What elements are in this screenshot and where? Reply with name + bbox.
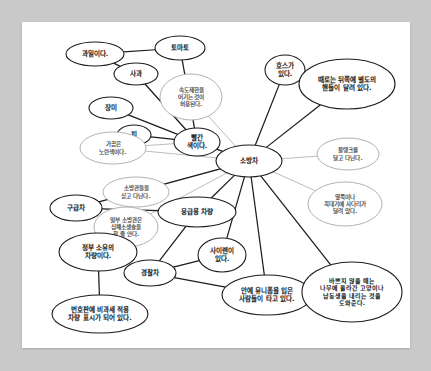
edge-n_ladder-to-n_firetruck	[273, 172, 315, 191]
node-plate[interactable]: 번호판에 비과세 적용차량 표시가 되어 있다.	[52, 295, 148, 333]
concept-map-graph: 과일이다.토마토사과장미피빨간색이다.속도제한을어기는 것이허용된다.가끔은노란…	[22, 22, 410, 348]
node-label: 속도제한을어기는 것이허용된다.	[178, 85, 205, 107]
node-label: 응급용 차량	[181, 207, 213, 216]
edge-n_rearwheel-to-n_firetruck	[266, 105, 320, 148]
node-tomato[interactable]: 토마토	[155, 36, 205, 60]
node-label: 과일이다.	[82, 49, 109, 58]
node-emergency[interactable]: 응급용 차량	[158, 197, 236, 227]
node-ambulance[interactable]: 구급차	[50, 195, 102, 221]
node-red[interactable]: 빨간색이다.	[174, 128, 220, 156]
edge-n_emergency-to-n_firetruck	[211, 175, 234, 198]
node-speed[interactable]: 속도제한을어기는 것이허용된다.	[160, 74, 222, 120]
node-watertank[interactable]: 물탱크를달고 다닌다.	[317, 138, 379, 170]
node-yellow[interactable]: 가끔은노란색이다.	[80, 132, 146, 164]
edge-n_emergency-to-n_police	[159, 226, 186, 260]
node-label: 구급차	[67, 203, 86, 212]
node-fruit[interactable]: 과일이다.	[66, 42, 124, 66]
node-govt[interactable]: 정부 소유의차량이다.	[59, 233, 137, 271]
node-label: 호스가있다.	[276, 61, 294, 78]
node-carries[interactable]: 소방관들을싣고 다닌다.	[103, 177, 169, 207]
edge-n_fruit-to-n_apple	[114, 63, 120, 66]
edge-n_uniform-to-n_firetruck	[251, 177, 264, 275]
image-frame: 과일이다.토마토사과장미피빨간색이다.속도제한을어기는 것이허용된다.가끔은노란…	[0, 0, 431, 371]
edge-n_watertank-to-n_firetruck	[282, 156, 318, 159]
node-label: 때로는 뒤쪽에 별도의핸들이 달려 있다.	[318, 75, 377, 92]
node-police[interactable]: 경찰차	[124, 260, 176, 286]
edge-n_govt-to-n_plate	[99, 271, 100, 295]
node-label: 번호판에 비과세 적용차량 표시가 되어 있다.	[68, 305, 131, 322]
node-label: 소방차	[240, 156, 259, 165]
node-rearwheel[interactable]: 때로는 뒤쪽에 별도의핸들이 달려 있다.	[299, 59, 395, 109]
edge-n_siren-to-n_police	[173, 261, 199, 268]
edge-n_red-to-n_firetruck	[217, 149, 223, 151]
node-label: 사과	[130, 69, 142, 78]
node-label: 안에 유니폼을 입은사람들이 타고 있다.	[239, 286, 294, 303]
node-label: 장미	[105, 103, 117, 112]
edge-n_fruit-to-n_tomato	[124, 50, 156, 52]
edge-n_blood-to-n_red	[151, 137, 175, 140]
node-label: 소방관들을싣고 다닌다.	[121, 184, 150, 199]
node-siren[interactable]: 사이렌이있다.	[198, 238, 246, 272]
node-cat[interactable]: 바쁘지 않을 때는나무에 올라간 고양이나남동생을 내리는 것을도와준다.	[302, 262, 402, 322]
node-rose[interactable]: 장미	[89, 97, 133, 119]
node-label: 토마토	[171, 43, 189, 52]
node-label: 경찰차	[141, 268, 160, 277]
edge-n_police-to-n_uniform	[174, 278, 225, 288]
node-label: 정부 소유의차량이다.	[82, 243, 114, 260]
node-apple[interactable]: 사과	[114, 63, 158, 85]
node-layer: 과일이다.토마토사과장미피빨간색이다.속도제한을어기는 것이허용된다.가끔은노란…	[50, 36, 402, 333]
node-uniform[interactable]: 안에 유니폼을 입은사람들이 타고 있다.	[222, 275, 312, 315]
node-ladder[interactable]: 옆쪽이나꼭대기에 사다리가달려 있다.	[308, 182, 382, 226]
node-firetruck[interactable]: 소방차	[216, 145, 282, 177]
edge-n_yellow-to-n_red	[146, 144, 175, 146]
edge-n_hose-to-n_firetruck	[255, 84, 279, 145]
concept-map-canvas: 과일이다.토마토사과장미피빨간색이다.속도제한을어기는 것이허용된다.가끔은노란…	[22, 22, 410, 348]
